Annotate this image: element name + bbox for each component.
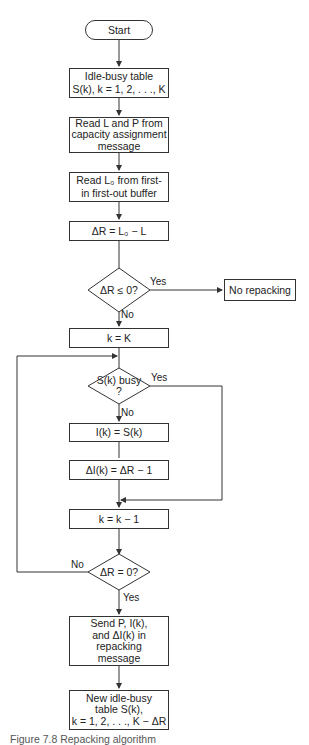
no-label-1: No [121, 309, 134, 320]
decision-busy-line2: ? [116, 386, 122, 397]
new-table-line3: k = 1, 2, . . ., K − ΔR [72, 716, 167, 728]
send-line4: message [98, 653, 141, 665]
assign-I-box: I(k) = S(k) [69, 423, 169, 442]
figure-caption: Figure 7.8 Repacking algorithm [10, 733, 156, 745]
start-label: Start [108, 24, 130, 37]
decrement-k-box: k = k − 1 [69, 509, 169, 529]
assign-delta-I-label: ΔI(k) = ΔR − 1 [86, 464, 153, 477]
set-k-box: k = K [69, 328, 169, 348]
no-label-3: No [71, 559, 84, 570]
read-Lo-box: Read L₀ from first- in first-out buffer [69, 172, 169, 202]
assign-I-label: I(k) = S(k) [96, 426, 142, 439]
yes-label-3: Yes [123, 592, 139, 603]
start-terminal: Start [85, 20, 153, 40]
idle-busy-table-line1: Idle-busy table [85, 70, 153, 83]
read-Lo-line2: in first-out buffer [81, 187, 157, 200]
send-line1: Send P, I(k), [90, 618, 147, 630]
send-message-box: Send P, I(k), and ΔI(k) in repacking mes… [69, 616, 169, 666]
assign-delta-I-box: ΔI(k) = ΔR − 1 [69, 460, 169, 480]
no-repacking-label: No repacking [229, 284, 291, 297]
yes-label-1: Yes [150, 276, 166, 287]
decision-delta-R-eq-0: ΔR = 0? [88, 562, 150, 582]
send-line3: repacking [96, 641, 142, 653]
idle-busy-table-box: Idle-busy table S(k), k = 1, 2, . . ., K [69, 68, 169, 98]
decrement-k-label: k = k − 1 [99, 513, 139, 526]
decision-delta-R-eq-0-label: ΔR = 0? [100, 566, 138, 578]
decision-busy: S(k) busy ? [88, 374, 150, 398]
delta-R-box: ΔR = L₀ − L [69, 221, 169, 241]
set-k-label: k = K [107, 332, 131, 345]
decision-delta-R-le-0-label: ΔR ≤ 0? [100, 284, 138, 296]
idle-busy-table-line2: S(k), k = 1, 2, . . ., K [72, 83, 165, 96]
yes-label-2: Yes [151, 372, 167, 383]
read-Lo-line1: Read L₀ from first- [76, 174, 161, 187]
no-repacking-box: No repacking [224, 279, 296, 301]
read-L-P-line3: message [98, 141, 141, 153]
no-label-2: No [121, 407, 134, 418]
read-L-P-box: Read L and P from capacity assignment me… [69, 117, 169, 153]
new-table-box: New idle-busy table S(k), k = 1, 2, . . … [69, 690, 169, 730]
delta-R-label: ΔR = L₀ − L [92, 225, 147, 238]
decision-delta-R-le-0: ΔR ≤ 0? [88, 280, 150, 300]
